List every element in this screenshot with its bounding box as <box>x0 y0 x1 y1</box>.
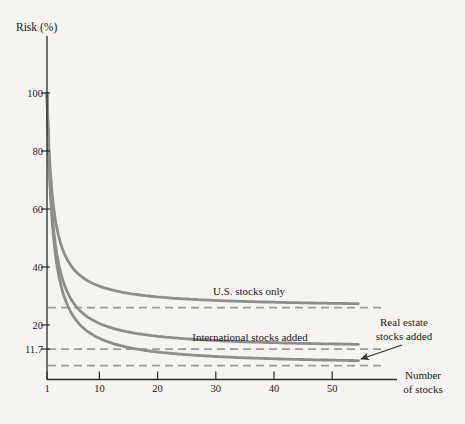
x-axis-title-line1: Number <box>403 368 442 382</box>
real-estate-annotation-arrow <box>361 345 402 359</box>
x-axis-title-line2: of stocks <box>403 382 442 396</box>
risk-curve-international-stocks-added <box>47 93 358 344</box>
y-axis-title: Risk (%) <box>16 21 57 34</box>
y-tick-label-40: 40 <box>33 262 44 273</box>
real-estate-label-line1: Real estate <box>376 315 433 329</box>
x-tick-label-40: 40 <box>269 383 280 394</box>
real-estate-label-line2: stocks added <box>376 329 433 343</box>
y-tick-label-100: 100 <box>27 88 43 99</box>
risk-curve-us-stocks-only <box>47 93 358 304</box>
x-tick-label-20: 20 <box>152 383 163 394</box>
y-tick-label-11.7: 11.7 <box>25 344 43 355</box>
x-axis-title: Number of stocks <box>403 368 442 396</box>
curve-label-real-estate: Real estate stocks added <box>376 315 433 343</box>
diversification-risk-chart: 1008060402011.711020304050 Risk (%) U.S.… <box>0 0 465 424</box>
x-tick-label-30: 30 <box>211 383 222 394</box>
y-tick-label-20: 20 <box>33 320 44 331</box>
y-tick-label-60: 60 <box>33 204 44 215</box>
curve-label-international-stocks-added: International stocks added <box>192 331 307 344</box>
x-tick-label-50: 50 <box>327 383 338 394</box>
curve-label-us-stocks-only: U.S. stocks only <box>213 285 285 298</box>
x-tick-label-10: 10 <box>94 383 105 394</box>
chart-canvas: 1008060402011.711020304050 <box>0 0 465 424</box>
y-tick-label-80: 80 <box>33 146 44 157</box>
x-tick-label-1: 1 <box>44 383 49 394</box>
